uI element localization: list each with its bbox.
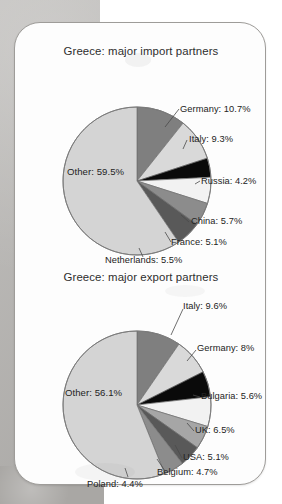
import-label-china: China: 5.7% [191,216,242,226]
export-label-poland: Poland: 4.4% [87,479,143,489]
charts-card: Greece: major import partners Germany: 1… [14,22,266,485]
export-label-belgium: Belgium: 4.7% [157,467,218,477]
leader-line [171,309,183,335]
export-label-germany: Germany: 8% [197,343,254,353]
import-label-france: France: 5.1% [171,237,227,247]
export-pie-wrap [15,263,267,485]
export-label-other: Other: 56.1% [65,387,122,398]
export-partners-chart: Greece: major export partners Italy: 9.6… [15,263,267,485]
import-pie-svg [15,29,267,261]
export-pie-svg [15,263,267,485]
export-label-usa: USA: 5.1% [183,452,229,462]
import-label-germany: Germany: 10.7% [180,104,250,114]
import-pie-wrap [15,29,267,261]
export-label-italy: Italy: 9.6% [183,301,227,311]
export-label-uk: UK: 6.5% [195,425,235,435]
import-label-other: Other: 59.5% [67,166,124,177]
import-label-italy: Italy: 9.3% [189,134,233,144]
import-label-russia: Russia: 4.2% [201,176,256,186]
import-partners-chart: Greece: major import partners Germany: 1… [15,29,267,261]
export-label-bulgaria: Bulgaria: 5.6% [201,391,262,401]
